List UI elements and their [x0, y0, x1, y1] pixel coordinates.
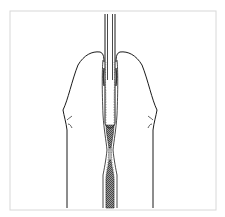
illustration-canvas	[0, 0, 225, 217]
right-fold-mark	[148, 116, 153, 128]
right-outer-contour	[116, 52, 157, 208]
catheter-outer	[105, 14, 115, 128]
lumen-shading-lower	[106, 160, 114, 208]
left-fold-mark	[67, 116, 72, 128]
catheter-inner-lines	[108, 14, 113, 80]
left-outer-contour	[63, 52, 104, 208]
medical-illustration	[0, 0, 225, 217]
urethra-narrowing	[109, 148, 111, 160]
catheter-stipple	[106, 90, 114, 118]
